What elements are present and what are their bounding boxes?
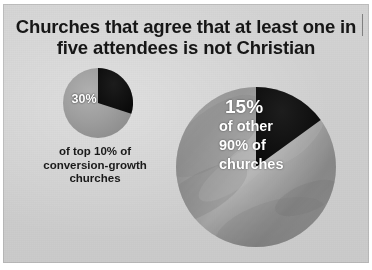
small-pie-caption-line-2: conversion-growth: [17, 159, 173, 173]
large-pie-label-line-2: of other: [219, 117, 331, 136]
large-pie-labels: 15% of other 90% of churches: [219, 96, 331, 174]
small-pie-caption: of top 10% of conversion-growth churches: [17, 145, 173, 186]
chart-figure: Churches that agree that at least one in…: [0, 0, 372, 270]
large-pie-label-line-3: 90% of: [219, 136, 331, 155]
small-pie-value-label: 30%: [63, 93, 105, 106]
chart-title-line-1: Churches that agree that at least one in: [3, 16, 369, 37]
large-pie-group: 15% of other 90% of churches: [175, 76, 337, 258]
chart-title: Churches that agree that at least one in…: [3, 16, 369, 58]
small-pie-caption-line-1: of top 10% of: [17, 145, 173, 159]
large-pie-label-line-4: churches: [219, 155, 331, 174]
chart-title-line-2: five attendees is not Christian: [3, 37, 369, 58]
small-pie-group: 30% of top 10% of conversion-growth chur…: [17, 67, 173, 197]
large-pie-value-label: 15%: [225, 96, 331, 117]
small-pie-caption-line-3: churches: [17, 172, 173, 186]
chart-panel: Churches that agree that at least one in…: [3, 4, 369, 263]
